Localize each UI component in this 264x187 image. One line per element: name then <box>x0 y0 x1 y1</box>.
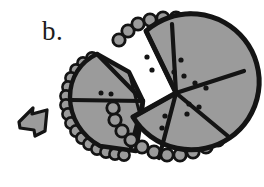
small-arrow-fragment <box>19 108 47 136</box>
illustration-svg <box>0 0 264 187</box>
wedge-top-left-dots <box>144 54 154 72</box>
fragment-wedge-divider <box>71 100 143 101</box>
small-arrow-fragment-body <box>19 108 47 136</box>
figure-panel: b. <box>0 0 264 187</box>
